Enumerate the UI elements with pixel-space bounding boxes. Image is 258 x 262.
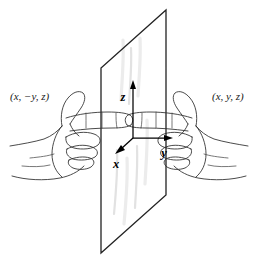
axis-label-z: z (120, 90, 126, 104)
axis-label-y: y (159, 146, 167, 160)
mirror-reflection-figure: z y x (x, −y, z) (x, y, z) (0, 0, 258, 262)
figure-root: z y x (x, −y, z) (x, y, z) (0, 0, 258, 262)
label-left-point: (x, −y, z) (10, 90, 50, 103)
label-right-point: (x, y, z) (212, 90, 244, 103)
axis-label-x: x (112, 157, 119, 171)
